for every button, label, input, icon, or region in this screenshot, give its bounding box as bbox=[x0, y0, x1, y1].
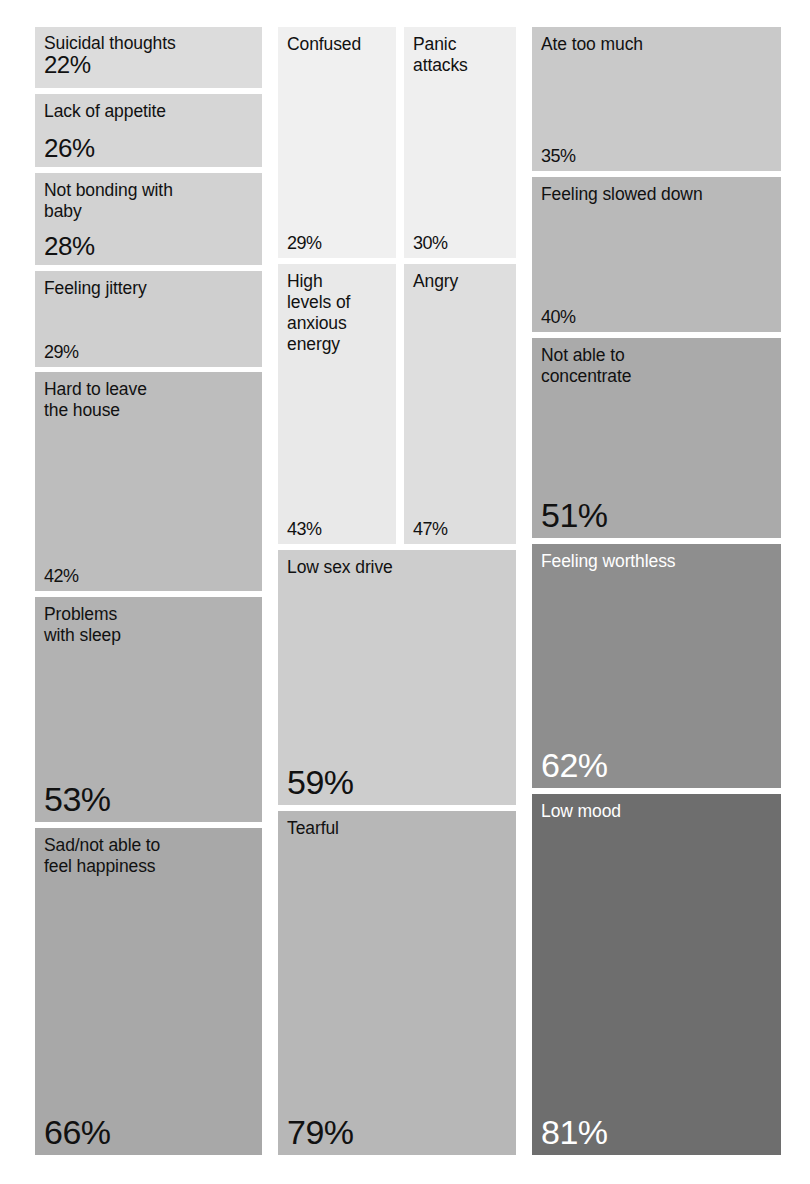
treemap-tile-tearful: Tearful79% bbox=[278, 811, 516, 1155]
treemap-tile-label: Not bonding with baby bbox=[44, 180, 257, 222]
symptom-treemap-chart: Suicidal thoughts22%Lack of appetite26%N… bbox=[0, 0, 810, 1184]
treemap-tile-not-able-to-concentrate: Not able to concentrate51% bbox=[532, 338, 781, 538]
treemap-tile-low-mood: Low mood81% bbox=[532, 794, 781, 1155]
treemap-tile-value: 59% bbox=[287, 765, 354, 799]
treemap-tile-label: High levels of anxious energy bbox=[287, 271, 391, 355]
treemap-tile-lack-of-appetite: Lack of appetite26% bbox=[35, 94, 262, 167]
treemap-tile-confused: Confused29% bbox=[278, 27, 396, 258]
treemap-tile-sad-not-able-to-feel-happiness: Sad/not able to feel happiness66% bbox=[35, 828, 262, 1155]
treemap-tile-value: 30% bbox=[413, 234, 448, 252]
treemap-tile-angry: Angry47% bbox=[404, 264, 516, 544]
treemap-tile-high-levels-of-anxious-energy: High levels of anxious energy43% bbox=[278, 264, 396, 544]
treemap-tile-label: Confused bbox=[287, 34, 391, 55]
treemap-tile-value: 22% bbox=[44, 53, 91, 77]
treemap-tile-feeling-worthless: Feeling worthless62% bbox=[532, 544, 781, 788]
treemap-tile-value: 51% bbox=[541, 498, 608, 532]
treemap-tile-value: 81% bbox=[541, 1115, 608, 1149]
treemap-tile-label: Low mood bbox=[541, 801, 776, 822]
treemap-tile-label: Angry bbox=[413, 271, 511, 292]
treemap-tile-suicidal-thoughts: Suicidal thoughts22% bbox=[35, 27, 262, 88]
treemap-tile-panic-attacks: Panic attacks30% bbox=[404, 27, 516, 258]
treemap-tile-value: 26% bbox=[44, 135, 95, 161]
treemap-tile-label: Hard to leave the house bbox=[44, 379, 257, 421]
treemap-tile-value: 29% bbox=[44, 343, 79, 361]
treemap-tile-label: Panic attacks bbox=[413, 34, 511, 76]
treemap-tile-value: 28% bbox=[44, 233, 95, 259]
treemap-tile-feeling-slowed-down: Feeling slowed down40% bbox=[532, 177, 781, 332]
treemap-tile-value: 66% bbox=[44, 1115, 111, 1149]
treemap-tile-label: Not able to concentrate bbox=[541, 345, 776, 387]
treemap-tile-problems-with-sleep: Problems with sleep53% bbox=[35, 597, 262, 822]
treemap-tile-label: Sad/not able to feel happiness bbox=[44, 835, 257, 877]
treemap-tile-label: Ate too much bbox=[541, 34, 776, 55]
treemap-tile-label: Feeling worthless bbox=[541, 551, 776, 572]
treemap-tile-value: 42% bbox=[44, 567, 79, 585]
treemap-tile-value: 62% bbox=[541, 748, 608, 782]
treemap-tile-label: Problems with sleep bbox=[44, 604, 257, 646]
treemap-tile-label: Feeling jittery bbox=[44, 278, 257, 299]
treemap-tile-value: 29% bbox=[287, 234, 322, 252]
treemap-tile-value: 79% bbox=[287, 1115, 354, 1149]
treemap-tile-feeling-jittery: Feeling jittery29% bbox=[35, 271, 262, 367]
treemap-tile-label: Feeling slowed down bbox=[541, 184, 776, 205]
treemap-tile-label: Low sex drive bbox=[287, 557, 511, 578]
treemap-tile-value: 53% bbox=[44, 782, 111, 816]
treemap-tile-label: Tearful bbox=[287, 818, 511, 839]
treemap-tile-ate-too-much: Ate too much35% bbox=[532, 27, 781, 171]
treemap-tile-value: 35% bbox=[541, 147, 576, 165]
treemap-tile-low-sex-drive: Low sex drive59% bbox=[278, 550, 516, 805]
treemap-tile-value: 47% bbox=[413, 520, 448, 538]
treemap-tile-value: 43% bbox=[287, 520, 322, 538]
treemap-tile-not-bonding-with-baby: Not bonding with baby28% bbox=[35, 173, 262, 265]
treemap-tile-hard-to-leave-the-house: Hard to leave the house42% bbox=[35, 372, 262, 591]
treemap-tile-label: Lack of appetite bbox=[44, 101, 257, 122]
treemap-tile-value: 40% bbox=[541, 308, 576, 326]
